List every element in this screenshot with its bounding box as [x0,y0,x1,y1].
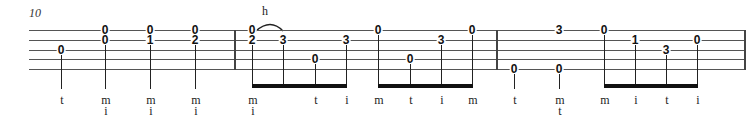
note-stem [61,55,62,89]
fret-number: 3 [555,25,564,35]
staff-line [29,69,745,70]
fret-number: 1 [631,35,640,45]
note-stem [472,35,473,86]
finger-label: i [634,95,637,106]
finger-label: t [409,95,412,106]
finger-label: t [513,95,516,106]
fret-number: 3 [662,45,671,55]
finger-label: m [374,95,383,106]
fret-number: 0 [374,25,383,35]
note-stem [315,64,316,86]
fret-number: 0 [510,64,519,74]
finger-label: mi [191,95,200,117]
staff-line [29,59,745,60]
note-stem [604,35,605,86]
finger-label: m [468,95,477,106]
fret-number: 1 [146,35,155,45]
finger-label: t [60,95,63,106]
beam [252,84,347,88]
finger-label: mi [101,95,110,117]
fret-number: 3 [342,35,351,45]
staff-line [29,30,745,31]
finger-label: t [314,95,317,106]
finger-label: mi [248,95,257,117]
bar-line [234,30,236,70]
finger-label: m [600,95,609,106]
fret-number: 0 [311,54,320,64]
note-stem [150,45,151,89]
note-stem [283,45,284,86]
finger-label: i [345,95,348,106]
finger-label: mi [146,95,155,117]
staff-line [29,50,745,51]
fret-number: 0 [57,45,66,55]
fret-number: 0 [693,35,702,45]
finger-label: mt [555,95,564,117]
fret-number: 3 [437,35,446,45]
note-stem [441,45,442,86]
note-stem [252,45,253,86]
fret-number: 0 [555,64,564,74]
note-stem [195,45,196,89]
fret-number: 0 [468,25,477,35]
bar-line [496,30,498,70]
finger-label: t [665,95,668,106]
fret-number: 0 [101,35,110,45]
fret-number: 3 [279,35,288,45]
fret-number: 2 [248,35,257,45]
note-stem [514,74,515,89]
fret-number: 2 [191,35,200,45]
note-stem [105,45,106,89]
hammer-on-label: h [262,4,268,19]
fret-number: 0 [600,25,609,35]
note-stem [378,35,379,86]
beam [378,84,473,88]
finger-label: i [440,95,443,106]
note-stem [559,74,560,89]
finger-label: i [696,95,699,106]
beam [604,84,698,88]
note-stem [635,45,636,86]
fret-number: 0 [406,54,415,64]
bar-line [744,30,746,70]
note-stem [666,55,667,86]
note-stem [346,45,347,86]
measure-number: 10 [29,6,41,21]
note-stem [410,64,411,86]
note-stem [697,45,698,86]
